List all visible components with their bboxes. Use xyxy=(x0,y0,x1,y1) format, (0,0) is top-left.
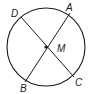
center-point xyxy=(44,45,47,48)
label-c: C xyxy=(75,77,83,88)
label-d: D xyxy=(11,8,18,19)
label-a: A xyxy=(65,2,73,13)
label-b: B xyxy=(20,83,27,94)
diagram-canvas: M A D B C xyxy=(0,0,88,94)
label-m: M xyxy=(57,43,66,54)
circle-diagram: M A D B C xyxy=(0,0,88,94)
